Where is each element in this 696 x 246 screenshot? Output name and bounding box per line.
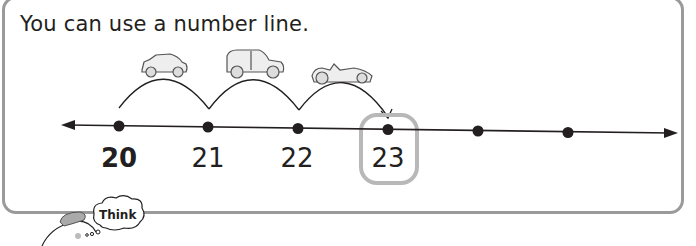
hatchback-car-icon (227, 50, 284, 78)
tick-point (114, 121, 125, 132)
jump-arc-1 (119, 79, 209, 109)
tick-point (293, 123, 304, 134)
tick-point (203, 122, 214, 133)
tick-point (383, 124, 394, 135)
left-arrow-icon (61, 120, 75, 130)
race-car-icon (312, 64, 372, 84)
right-arrow-icon (664, 128, 678, 138)
number-label-22: 22 (280, 143, 313, 173)
number-label-23: 23 (371, 143, 404, 173)
tick-point (473, 126, 484, 137)
think-label: Think (99, 208, 136, 222)
jump-arc-2 (209, 80, 299, 110)
tick-point (563, 127, 574, 138)
jump-arc-3 (299, 83, 388, 117)
small-car-icon (142, 54, 187, 77)
number-line-axis (68, 125, 670, 133)
number-label-20: 20 (101, 143, 137, 173)
mascot-icon (42, 212, 96, 246)
number-label-21: 21 (191, 143, 224, 173)
